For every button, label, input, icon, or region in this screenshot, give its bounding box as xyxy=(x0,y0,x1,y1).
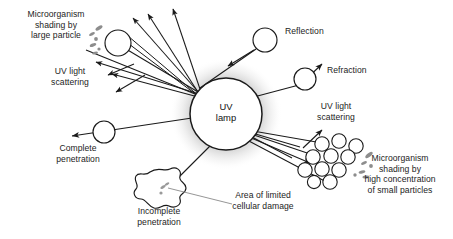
reflection-particle xyxy=(253,28,277,52)
label-microorganism-shading-large: Microorganism shading by large particle xyxy=(6,9,106,41)
label-microorganism-shading-small: Microorganism shading by high concentrat… xyxy=(348,153,452,195)
label-area-limited-cellular-damage: Area of limited cellular damage xyxy=(215,190,311,211)
complete-penetration-particle xyxy=(93,121,115,143)
uv-scattering-diagram: UV lamp Microorganism shading by large p… xyxy=(0,0,453,239)
label-incomplete-penetration: Incomplete penetration xyxy=(115,206,203,227)
cell-blob xyxy=(134,168,186,208)
label-reflection: Reflection xyxy=(285,26,347,37)
label-uv-light-scattering-left: UV light scattering xyxy=(34,66,106,87)
ray-bundle-upper-left-secondary xyxy=(128,36,202,99)
refraction-particle xyxy=(294,68,316,90)
uv-lamp-label: UV lamp xyxy=(196,101,256,124)
label-uv-light-scattering-right: UV light scattering xyxy=(300,101,372,122)
label-complete-penetration: Complete penetration xyxy=(36,143,120,164)
large-particle xyxy=(105,30,131,56)
label-refraction: Refraction xyxy=(327,65,389,76)
